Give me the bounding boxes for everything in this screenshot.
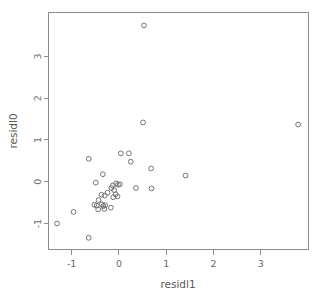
data-point xyxy=(100,172,105,177)
x-tick-label: -1 xyxy=(67,258,76,269)
data-point xyxy=(296,122,301,127)
plot-frame-box xyxy=(49,13,309,250)
data-point xyxy=(71,209,76,214)
data-point xyxy=(99,192,104,197)
data-point xyxy=(109,205,114,210)
data-point xyxy=(118,151,123,156)
y-tick-label: 2 xyxy=(32,95,43,101)
x-tick-label: 0 xyxy=(116,258,122,269)
y-axis-ticks: -10123 xyxy=(32,53,49,228)
data-point xyxy=(93,180,98,185)
x-tick-label: 3 xyxy=(258,258,264,269)
y-tick-label: 1 xyxy=(32,137,43,143)
data-point xyxy=(86,235,91,240)
x-tick-label: 1 xyxy=(163,258,169,269)
data-point xyxy=(86,156,91,161)
data-point xyxy=(149,186,154,191)
x-axis-ticks: -10123 xyxy=(67,250,264,269)
data-point xyxy=(105,190,110,195)
data-point xyxy=(141,120,146,125)
data-point xyxy=(183,173,188,178)
scatter-plot-figure: -10123 -10123 residl1 residl0 xyxy=(0,0,321,299)
data-points-group xyxy=(55,23,301,240)
data-point xyxy=(149,166,154,171)
y-tick-label: 3 xyxy=(32,53,43,59)
data-point xyxy=(134,186,139,191)
data-point xyxy=(142,23,147,28)
plot-canvas: -10123 -10123 residl1 residl0 xyxy=(0,0,321,299)
data-point xyxy=(102,193,107,198)
y-axis-title: residl0 xyxy=(7,113,19,148)
y-tick-label: 0 xyxy=(32,179,43,185)
data-point xyxy=(128,159,133,164)
x-tick-label: 2 xyxy=(210,258,216,269)
y-tick-label: -1 xyxy=(32,219,43,228)
data-point xyxy=(126,151,131,156)
data-point xyxy=(55,221,60,226)
x-axis-title: residl1 xyxy=(160,278,195,290)
data-point xyxy=(96,198,101,203)
